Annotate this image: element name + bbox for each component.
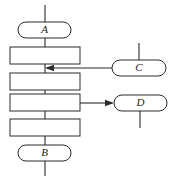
flowchart-svg: A B C D	[0, 0, 172, 180]
node-d-label: D	[136, 96, 145, 108]
arrowhead-left-to-spine	[45, 65, 54, 71]
node-p1[interactable]	[10, 47, 80, 64]
node-c-label: C	[135, 61, 143, 73]
node-b-label: B	[41, 146, 48, 158]
arrowhead-right-to-d	[105, 100, 114, 106]
node-p3[interactable]	[10, 94, 80, 111]
node-c[interactable]: C	[112, 60, 166, 76]
node-b[interactable]: B	[18, 145, 71, 161]
flowchart-canvas: A B C D	[0, 0, 172, 180]
node-p1-shape[interactable]	[10, 47, 80, 64]
node-a-label: A	[40, 23, 48, 35]
node-p2[interactable]	[10, 73, 80, 90]
node-a[interactable]: A	[18, 22, 71, 38]
node-p2-shape[interactable]	[10, 73, 80, 90]
node-p4[interactable]	[10, 119, 80, 136]
node-p4-shape[interactable]	[10, 119, 80, 136]
node-d[interactable]: D	[114, 95, 167, 111]
node-p3-shape[interactable]	[10, 94, 80, 111]
